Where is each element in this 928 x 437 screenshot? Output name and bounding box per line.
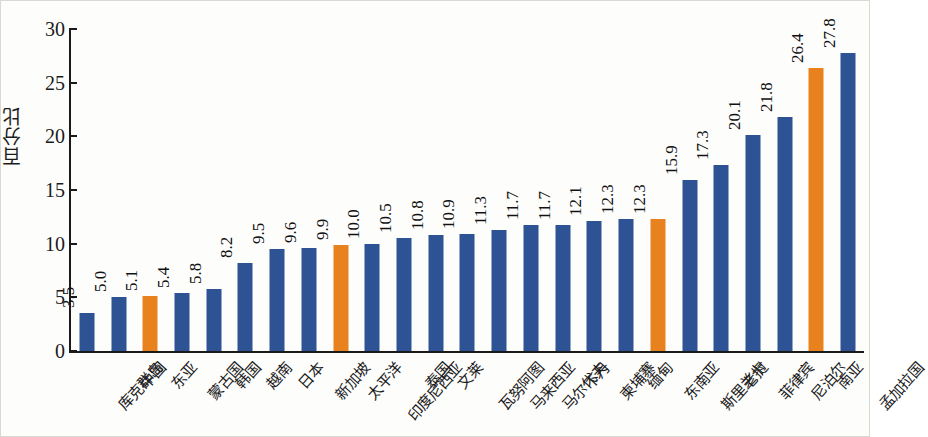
bar-slot[interactable]: 10.9: [452, 29, 484, 351]
bar-slot[interactable]: 12.3: [642, 29, 674, 351]
bar-slot[interactable]: 9.5: [261, 29, 293, 351]
bar[interactable]: [79, 313, 94, 351]
x-axis-label: 菲律宾: [773, 357, 818, 403]
bar-slot[interactable]: 27.8: [832, 29, 864, 351]
bar[interactable]: [619, 219, 634, 351]
bar[interactable]: [238, 263, 253, 351]
bar[interactable]: [523, 225, 538, 351]
bar-slot[interactable]: 26.4: [801, 29, 833, 351]
bar-slot[interactable]: 5.0: [103, 29, 135, 351]
bar-slot[interactable]: 8.2: [230, 29, 262, 351]
bar-value-label: 5.4: [154, 267, 174, 288]
bar-highlighted[interactable]: [333, 245, 348, 351]
bar-value-label: 11.3: [471, 196, 491, 225]
bar[interactable]: [428, 235, 443, 351]
bar-value-label: 10.0: [344, 209, 364, 239]
bar-value-label: 5.1: [122, 270, 142, 291]
bar-value-label: 15.9: [662, 146, 682, 176]
bar-slot[interactable]: 9.9: [325, 29, 357, 351]
x-axis-line: [69, 351, 864, 353]
bar-slot[interactable]: 15.9: [674, 29, 706, 351]
bar[interactable]: [270, 249, 285, 351]
bar-value-label: 11.7: [535, 191, 555, 220]
bar-value-label: 10.8: [408, 200, 428, 230]
bar-value-label: 12.3: [598, 184, 618, 214]
bar-value-label: 21.8: [757, 82, 777, 112]
bar-value-label: 3.5: [59, 287, 79, 308]
bar-slot[interactable]: 21.8: [769, 29, 801, 351]
plot-area: 3.55.05.15.45.88.29.59.69.910.010.510.81…: [71, 29, 864, 351]
bar-slot[interactable]: 9.6: [293, 29, 325, 351]
bar-value-label: 11.7: [503, 191, 523, 220]
y-tick-label: 0: [5, 340, 65, 363]
bar-value-label: 12.3: [630, 184, 650, 214]
y-tick-label: 5: [5, 286, 65, 309]
bar[interactable]: [175, 293, 190, 351]
x-axis-label: 日本: [293, 357, 328, 393]
bar[interactable]: [397, 238, 412, 351]
bar-highlighted[interactable]: [650, 219, 665, 351]
bar-slot[interactable]: 5.8: [198, 29, 230, 351]
bar-value-label: 10.9: [439, 199, 459, 229]
x-axis-label: 东亚: [166, 357, 201, 393]
bar-value-label: 27.8: [820, 18, 840, 48]
bar-value-label: 26.4: [788, 33, 808, 63]
y-tick-label: 20: [5, 125, 65, 148]
bar-value-label: 9.9: [313, 219, 333, 240]
bar[interactable]: [777, 117, 792, 351]
bar[interactable]: [301, 248, 316, 351]
bar-slot[interactable]: 10.0: [356, 29, 388, 351]
bar-value-label: 9.6: [281, 222, 301, 243]
y-tick-label: 10: [5, 232, 65, 255]
x-axis-label-group: 库克群岛中国东亚蒙古国韩国越南日本新加坡太平洋印度尼西亚泰国文莱瓦努阿图马来西亚…: [71, 355, 864, 437]
bar-value-label: 17.3: [693, 131, 713, 161]
bar[interactable]: [745, 135, 760, 351]
x-axis-label: 越南: [261, 357, 296, 393]
bar[interactable]: [714, 165, 729, 351]
bar[interactable]: [587, 221, 602, 351]
bar-value-label: 5.0: [91, 271, 111, 292]
bar-slot[interactable]: 5.4: [166, 29, 198, 351]
bar[interactable]: [682, 180, 697, 351]
bar-value-label: 12.1: [566, 186, 586, 216]
bar[interactable]: [841, 53, 856, 351]
y-tick-label: 25: [5, 71, 65, 94]
bar-value-label: 20.1: [725, 101, 745, 131]
bar[interactable]: [492, 230, 507, 351]
bar-value-label: 8.2: [217, 237, 237, 258]
bar-slot[interactable]: 10.8: [420, 29, 452, 351]
y-tick-label: 30: [5, 18, 65, 41]
bar-value-label: 9.5: [249, 223, 269, 244]
bar-slot[interactable]: 10.5: [388, 29, 420, 351]
bar-slot[interactable]: 5.1: [134, 29, 166, 351]
x-axis-label: 东南亚: [678, 357, 723, 403]
bar[interactable]: [460, 234, 475, 351]
x-axis-label: 孟加拉国: [873, 357, 927, 414]
bar-highlighted[interactable]: [143, 296, 158, 351]
x-axis-label: 新加坡: [329, 357, 374, 403]
bar-value-label: 10.5: [376, 204, 396, 234]
bar-slot[interactable]: 3.5: [71, 29, 103, 351]
bar-value-label: 5.8: [186, 263, 206, 284]
bar[interactable]: [365, 244, 380, 351]
bar[interactable]: [111, 297, 126, 351]
bar-highlighted[interactable]: [809, 68, 824, 351]
bar-slot[interactable]: 17.3: [705, 29, 737, 351]
bar[interactable]: [555, 225, 570, 351]
bar-slot[interactable]: 20.1: [737, 29, 769, 351]
bar[interactable]: [206, 289, 221, 351]
y-tick-label: 15: [5, 179, 65, 202]
